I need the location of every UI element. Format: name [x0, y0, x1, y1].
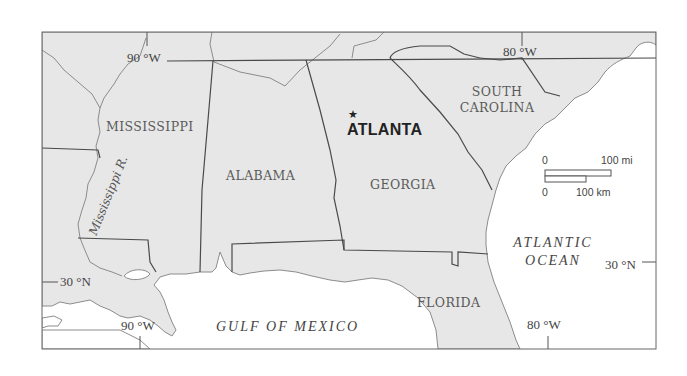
- state-label-florida: FLORIDA: [417, 295, 480, 311]
- coord-left-30n: 30 °N: [60, 274, 91, 290]
- state-label-georgia: GEORGIA: [370, 177, 436, 193]
- coord-top-80w: 80 °W: [503, 44, 537, 60]
- scale-mi-label: 100 mi: [601, 154, 633, 166]
- map-southeast-us: ★ ATLANTA MISSISSIPPI ALABAMA GEORGIA SO…: [0, 0, 687, 376]
- water-label-gulf-of-mexico: GULF OF MEXICO: [216, 318, 359, 336]
- state-label-carolina: CAROLINA: [449, 100, 545, 116]
- coord-bottom-80w: 80 °W: [527, 317, 561, 333]
- state-label-south-carolina: SOUTH CAROLINA: [449, 84, 545, 116]
- water-label-atlantic: ATLANTIC: [505, 234, 601, 252]
- water-label-ocean: OCEAN: [505, 252, 601, 270]
- state-label-south: SOUTH: [449, 84, 545, 100]
- star-icon: ★: [348, 108, 358, 121]
- water-label-atlantic-ocean: ATLANTIC OCEAN: [505, 234, 601, 270]
- coord-top-90w: 90 °W: [127, 50, 161, 66]
- coord-right-30n: 30 °N: [605, 257, 636, 273]
- state-label-alabama: ALABAMA: [226, 168, 295, 184]
- scale-km-zero: 0: [542, 186, 548, 198]
- city-label-atlanta: ATLANTA: [347, 121, 422, 139]
- state-label-mississippi: MISSISSIPPI: [106, 119, 194, 135]
- scale-mi-zero: 0: [542, 154, 548, 166]
- scale-km-label: 100 km: [576, 186, 610, 198]
- coord-bottom-90w: 90 °W: [121, 318, 155, 334]
